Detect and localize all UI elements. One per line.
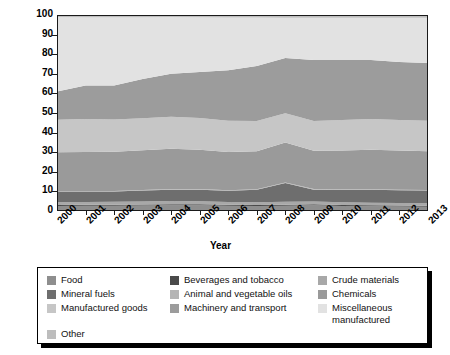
legend-item[interactable]: Food <box>47 274 170 286</box>
legend-swatch-icon <box>47 290 56 299</box>
x-axis-title: Year <box>0 240 441 251</box>
legend-items: FoodBeverages and tobaccoCrude materials… <box>47 274 419 340</box>
y-axis-tick-label: 80 <box>15 48 53 58</box>
legend-item-label: Other <box>61 328 85 340</box>
plot-area <box>57 15 428 211</box>
legend-swatch-icon <box>318 276 327 285</box>
legend-item[interactable]: Manufactured goods <box>47 302 170 326</box>
legend-item[interactable]: Crude materials <box>318 274 418 286</box>
legend-item-label: Crude materials <box>332 274 399 286</box>
legend-item[interactable]: Animal and vegetable oils <box>170 288 318 300</box>
legend-item[interactable]: Mineral fuels <box>47 288 170 300</box>
y-axis-tick-label: 10 <box>15 185 53 195</box>
legend-item-label: Food <box>61 274 83 286</box>
legend-empty-cell <box>318 328 418 340</box>
legend-item-label: Mineral fuels <box>61 288 115 300</box>
legend-swatch-icon <box>47 276 56 285</box>
legend-empty-cell <box>170 328 318 340</box>
legend-item-label: Manufactured goods <box>61 302 148 314</box>
legend: FoodBeverages and tobaccoCrude materials… <box>37 267 428 344</box>
y-axis-tick-label: 20 <box>15 166 53 176</box>
legend-item-label: Animal and vegetable oils <box>184 288 292 300</box>
legend-swatch-icon <box>318 290 327 299</box>
legend-swatch-icon <box>170 276 179 285</box>
y-axis-tick-label: 50 <box>15 107 53 117</box>
x-axis-tick-label: 2013 <box>426 202 450 226</box>
legend-item[interactable]: Machinery and transport <box>170 302 318 326</box>
legend-swatch-icon <box>170 290 179 299</box>
legend-item-label: Chemicals <box>332 288 376 300</box>
legend-item-label: Machinery and transport <box>184 302 286 314</box>
y-axis-tick-label: 70 <box>15 68 53 78</box>
legend-item[interactable]: Miscellaneous manufactured <box>318 302 418 326</box>
legend-item[interactable]: Beverages and tobacco <box>170 274 318 286</box>
legend-swatch-icon <box>318 304 327 313</box>
legend-swatch-icon <box>170 304 179 313</box>
legend-item[interactable]: Other <box>47 328 170 340</box>
y-axis-tick-label: 30 <box>15 146 53 156</box>
legend-swatch-icon <box>47 330 56 339</box>
legend-item[interactable]: Chemicals <box>318 288 418 300</box>
legend-item-label: Miscellaneous manufactured <box>332 302 392 326</box>
plot-frame <box>57 15 428 211</box>
y-axis-tick-label: 60 <box>15 87 53 97</box>
legend-swatch-icon <box>47 304 56 313</box>
y-axis-tick-label: 0 <box>15 205 53 215</box>
y-axis-tick-label: 90 <box>15 29 53 39</box>
y-axis-tick-label: 100 <box>15 9 53 19</box>
y-axis-tick-label: 40 <box>15 127 53 137</box>
legend-item-label: Beverages and tobacco <box>184 274 284 286</box>
